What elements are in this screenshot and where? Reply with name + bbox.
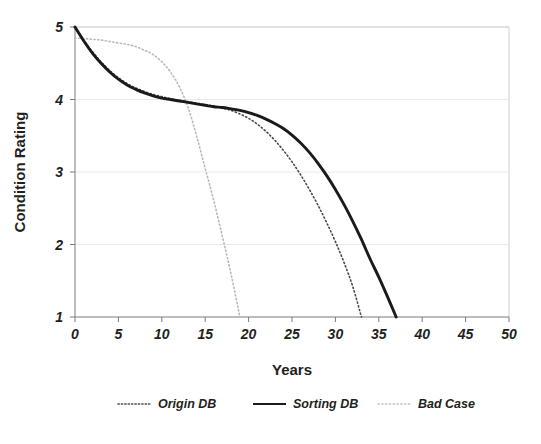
x-axis-title: Years: [272, 361, 312, 378]
x-tick-label-10: 10: [154, 326, 170, 342]
chart-container: 05101520253035404550 12345 Years Conditi…: [0, 0, 541, 444]
y-tick-label-3: 3: [55, 164, 63, 180]
y-tick-label-2: 2: [54, 237, 63, 253]
chart-legend: Origin DBSorting DBBad Case: [118, 397, 475, 411]
legend-label-sorting-db: Sorting DB: [293, 397, 358, 411]
x-tick-label-30: 30: [328, 326, 344, 342]
y-tick-label-5: 5: [55, 19, 63, 35]
y-tick-label-4: 4: [54, 92, 63, 108]
x-tick-label-20: 20: [240, 326, 257, 342]
condition-rating-chart: 05101520253035404550 12345 Years Conditi…: [0, 0, 541, 444]
legend-label-origin-db: Origin DB: [158, 397, 216, 411]
x-tick-label-5: 5: [115, 326, 123, 342]
x-tick-label-50: 50: [501, 326, 517, 342]
y-axis-title: Condition Rating: [11, 112, 28, 233]
chart-background: [0, 0, 541, 444]
x-tick-label-0: 0: [71, 326, 79, 342]
x-tick-label-25: 25: [283, 326, 300, 342]
x-tick-label-35: 35: [371, 326, 387, 342]
x-tick-label-40: 40: [413, 326, 430, 342]
legend-label-bad-case: Bad Case: [418, 397, 475, 411]
y-tick-label-1: 1: [55, 309, 63, 325]
x-tick-label-45: 45: [457, 326, 474, 342]
x-tick-label-15: 15: [197, 326, 213, 342]
